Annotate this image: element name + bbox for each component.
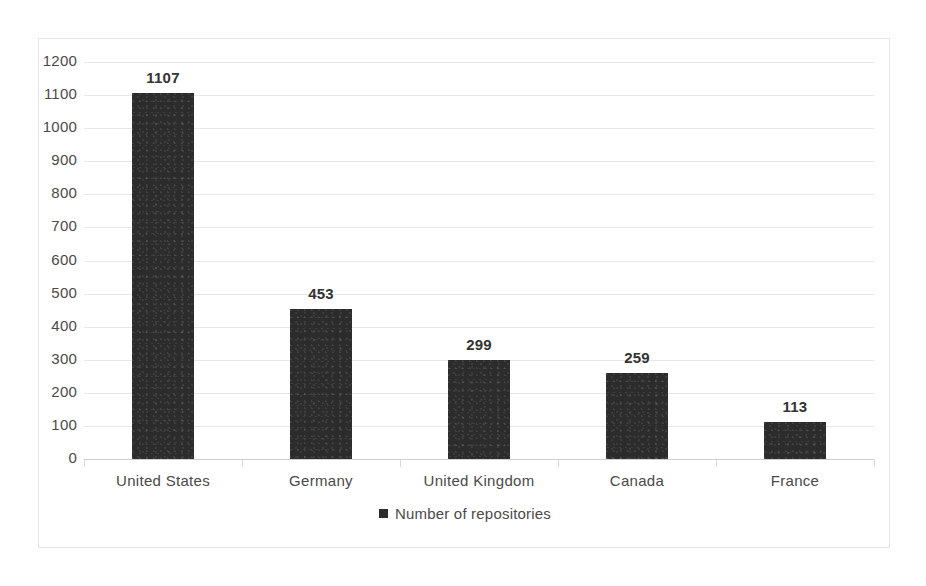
- bar-canada: [606, 373, 668, 459]
- legend-swatch-icon: [379, 509, 388, 518]
- x-axis-tick: [400, 460, 401, 467]
- x-axis-label-united-kingdom: United Kingdom: [400, 472, 558, 489]
- y-axis-tick-label: 200: [31, 383, 77, 400]
- y-axis-tick-label: 1000: [31, 118, 77, 135]
- chart-legend: Number of repositories: [39, 505, 891, 522]
- bar-united-kingdom: [448, 360, 510, 459]
- plot-area: 0100200300400500600700800900100011001200…: [39, 39, 891, 549]
- chart-frame: 0100200300400500600700800900100011001200…: [38, 38, 890, 548]
- x-axis-label-france: France: [716, 472, 874, 489]
- gridline: [84, 327, 874, 328]
- y-axis-tick-label: 0: [31, 449, 77, 466]
- legend-label: Number of repositories: [395, 505, 551, 522]
- bar-value-label: 259: [592, 349, 682, 366]
- bar-value-label: 113: [750, 398, 840, 415]
- x-axis-tick: [242, 460, 243, 467]
- gridline: [84, 161, 874, 162]
- y-axis-tick-label: 600: [31, 251, 77, 268]
- x-axis-label-canada: Canada: [558, 472, 716, 489]
- bar-value-label: 1107: [118, 69, 208, 86]
- x-axis-line: [84, 459, 874, 460]
- bar-value-label: 299: [434, 336, 524, 353]
- bar-value-label: 453: [276, 285, 366, 302]
- y-axis-tick-label: 300: [31, 350, 77, 367]
- x-axis-label-united-states: United States: [84, 472, 242, 489]
- gridline: [84, 128, 874, 129]
- gridline: [84, 95, 874, 96]
- x-axis-tick: [874, 460, 875, 467]
- bar-france: [764, 422, 826, 459]
- x-axis-tick: [558, 460, 559, 467]
- gridline: [84, 261, 874, 262]
- gridline: [84, 194, 874, 195]
- bar-germany: [290, 309, 352, 459]
- gridline: [84, 294, 874, 295]
- y-axis-tick-label: 500: [31, 284, 77, 301]
- gridline: [84, 227, 874, 228]
- y-axis-tick-label: 1100: [31, 85, 77, 102]
- x-axis-tick: [84, 460, 85, 467]
- y-axis-tick-label: 900: [31, 151, 77, 168]
- bar-united-states: [132, 93, 194, 459]
- y-axis-tick-label: 400: [31, 317, 77, 334]
- gridline: [84, 62, 874, 63]
- y-axis-tick-label: 100: [31, 416, 77, 433]
- x-axis-label-germany: Germany: [242, 472, 400, 489]
- x-axis-tick: [716, 460, 717, 467]
- y-axis-tick-label: 700: [31, 217, 77, 234]
- y-axis-tick-label: 1200: [31, 52, 77, 69]
- y-axis-tick-label: 800: [31, 184, 77, 201]
